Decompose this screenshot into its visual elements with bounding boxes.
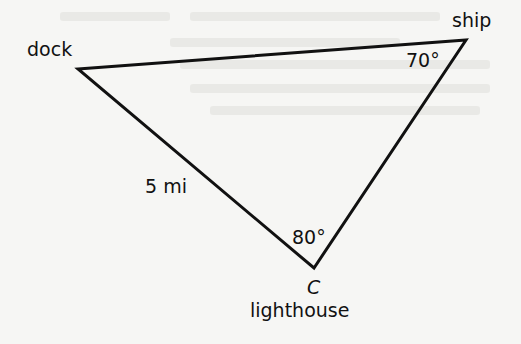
angle-label-lighthouse: 80°	[292, 228, 326, 247]
vertex-label-ship: ship	[452, 11, 491, 30]
vertex-point-name-c: C	[307, 278, 320, 297]
vertex-label-lighthouse: lighthouse	[250, 301, 349, 320]
triangle-diagram	[0, 0, 521, 344]
angle-label-ship: 70°	[406, 51, 440, 70]
triangle	[78, 40, 466, 268]
side-label-dock-lighthouse: 5 mi	[145, 177, 187, 196]
vertex-label-dock: dock	[27, 40, 72, 59]
